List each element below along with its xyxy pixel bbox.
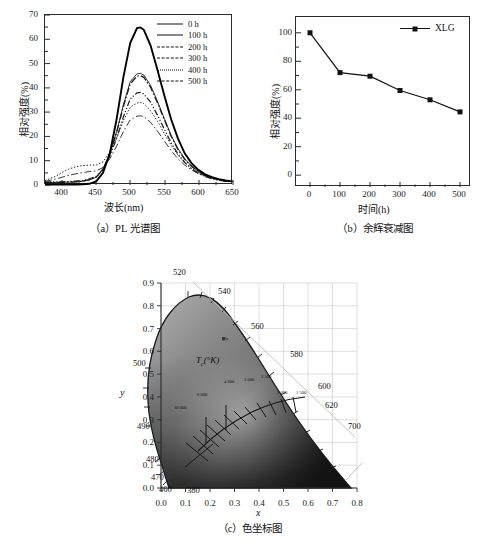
legend-swatch-xlg — [400, 28, 430, 29]
legend-item-500h: 500 h — [157, 76, 207, 88]
legend-swatch-500h — [157, 77, 183, 86]
panel-b-yaxis-title: 相对强度(%) — [267, 84, 282, 139]
cie-xtick-7: 0.7 — [327, 498, 338, 508]
cie-temp-label-6000: 6 000 — [197, 392, 207, 397]
cie-wavelength-label-500: 500 — [133, 358, 146, 368]
panel-b-xaxis-title: 时间(h) — [358, 201, 390, 216]
legend-label-400h: 400 h — [188, 65, 207, 75]
cie-ytick-7: 0.7 — [132, 324, 154, 334]
cie-gamut-fill — [140, 285, 370, 495]
cie-temp-label-2000: 2 000 — [277, 390, 287, 395]
panel-b-xtick-0: 0 — [307, 189, 312, 199]
panel-a-ytick-50: 50 — [20, 58, 38, 68]
cie-temp-label-10000: 10 000 — [174, 405, 187, 410]
panel-a-ytick-10: 10 — [20, 155, 38, 165]
panel-a-xaxis-title: 波长(nm) — [104, 199, 143, 214]
legend-label-0h: 0 h — [188, 19, 199, 29]
panel-b-xtick-200: 200 — [362, 189, 376, 199]
legend-label-100h: 100 h — [188, 30, 207, 40]
panel-a-xtick-600: 600 — [191, 187, 205, 197]
legend-item-200h: 200 h — [157, 41, 207, 53]
cie-temp-label-1500: 1 500 — [296, 390, 306, 395]
cie-xtick-6: 0.6 — [302, 498, 313, 508]
cie-ytick-4: 0.4 — [132, 392, 154, 402]
panel-a-xtick-400: 400 — [54, 187, 68, 197]
cie-xtick-3: 0.3 — [229, 498, 240, 508]
panel-b-curve — [296, 17, 471, 187]
panel-b-ytick-80: 80 — [272, 55, 292, 65]
panel-a-plot-area: 0 h 100 h 200 h 300 h 400 h — [44, 14, 232, 184]
cie-wavelength-label-480: 480 — [146, 454, 159, 464]
legend-label-500h: 500 h — [188, 76, 207, 86]
legend-swatch-100h — [157, 31, 183, 40]
cie-wavelength-label-470: 470 — [151, 472, 164, 482]
panel-b-xtick-400: 400 — [422, 189, 436, 199]
cie-wavelength-label-580: 580 — [290, 349, 303, 359]
cie-temp-label-3000: 3 000 — [244, 377, 254, 382]
legend-label-xlg: XLG — [435, 23, 455, 33]
legend-swatch-300h — [157, 54, 183, 63]
panel-a-xtick-650: 650 — [225, 187, 239, 197]
cie-xtick-5: 0.5 — [278, 498, 289, 508]
cie-ytick-2: 0.2 — [132, 437, 154, 447]
cie-temp-label-2500: 2 500 — [261, 374, 271, 379]
panel-a-xtick-500: 500 — [122, 187, 136, 197]
panel-a-ytick-70: 70 — [20, 9, 38, 19]
cie-xtick-0: 0.0 — [155, 498, 166, 508]
panel-a-ytick-0: 0 — [20, 179, 38, 189]
cie-ytick-9: 0.9 — [132, 278, 154, 288]
legend-item-0h: 0 h — [157, 18, 207, 30]
cie-xaxis-title: x — [256, 507, 260, 518]
cie-wavelength-label-460: 460 — [159, 484, 172, 494]
cie-wavelength-label-560: 560 — [251, 321, 264, 331]
panel-b-markers — [308, 30, 463, 114]
panel-b-ytick-100: 100 — [272, 27, 292, 37]
cie-ytick-0: 0.0 — [132, 483, 154, 493]
cie-wavelength-label-600: 600 — [318, 381, 331, 391]
panel-a-pl-spectrum: 0 h 100 h 200 h 300 h 400 h — [0, 0, 250, 235]
panel-b-afterglow-decay: XLG 0 20 40 60 80 100 0 100 200 300 400 … — [250, 0, 500, 235]
legend-item-300h: 300 h — [157, 53, 207, 65]
legend-item-100h: 100 h — [157, 30, 207, 42]
cie-ytick-6: 0.6 — [132, 346, 154, 356]
cie-wavelength-label-520: 520 — [173, 267, 186, 277]
panel-a-xtick-550: 550 — [157, 187, 171, 197]
legend-swatch-200h — [157, 42, 183, 51]
cie-xtick-1: 0.1 — [180, 498, 191, 508]
panel-b-ytick-0: 0 — [272, 169, 292, 179]
figure-container: 0 h 100 h 200 h 300 h 400 h — [0, 0, 500, 547]
cie-wavelength-label-380: 380 — [187, 485, 200, 495]
panel-b-plot-area: XLG — [295, 16, 470, 186]
panel-a-yaxis-title: 相对强度(%) — [16, 82, 31, 137]
cie-xtick-2: 0.2 — [204, 498, 215, 508]
legend-label-300h: 300 h — [188, 53, 207, 63]
cie-xtick-8: 0.8 — [351, 498, 362, 508]
cie-wavelength-label-620: 620 — [325, 400, 338, 410]
panel-b-xtick-500: 500 — [452, 189, 466, 199]
legend-swatch-400h — [157, 65, 183, 74]
panel-b-xtick-300: 300 — [392, 189, 406, 199]
panel-a-ytick-60: 60 — [20, 33, 38, 43]
panel-a-caption: （a）PL 光谱图 — [0, 220, 250, 235]
cie-temperature-axis-label: Tc(°K) — [196, 355, 219, 367]
cie-ytick-8: 0.8 — [132, 301, 154, 311]
panel-a-legend: 0 h 100 h 200 h 300 h 400 h — [157, 18, 207, 87]
panel-a-xtick-450: 450 — [88, 187, 102, 197]
legend-label-200h: 200 h — [188, 42, 207, 52]
panel-c-caption: （c）色坐标图 — [0, 520, 500, 535]
cie-yaxis-title: y — [120, 387, 124, 398]
cie-temp-label-4000: 4 000 — [224, 379, 234, 384]
cie-wavelength-label-490: 490 — [137, 421, 150, 431]
panel-c-cie-diagram: 0.0 0.1 0.2 0.3 0.4 0.5 0.6 0.7 0.8 0.0 … — [0, 255, 500, 547]
panel-b-ytick-20: 20 — [272, 141, 292, 151]
panel-b-xtick-100: 100 — [332, 189, 346, 199]
panel-b-legend: XLG — [400, 23, 455, 33]
cie-wavelength-label-540: 540 — [218, 286, 231, 296]
cie-temp-unit: (°K) — [204, 355, 220, 365]
cie-ytick-5: 0.5 — [132, 369, 154, 379]
legend-swatch-0h — [157, 19, 183, 28]
cie-wavelength-label-700: 700 — [348, 421, 361, 431]
panel-b-caption: （b）余辉衰减图 — [250, 220, 500, 235]
cie-guide-line-700 — [345, 463, 362, 481]
legend-item-400h: 400 h — [157, 64, 207, 76]
